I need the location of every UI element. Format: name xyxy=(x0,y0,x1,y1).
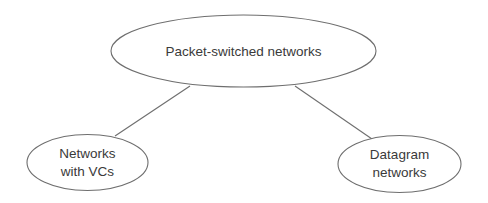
node-label-line-2: networks xyxy=(372,165,426,180)
node-datagram-networks: Datagram networks xyxy=(338,136,461,193)
ellipse-vc xyxy=(27,135,148,191)
node-networks-with-vcs: Networks with VCs xyxy=(27,135,148,191)
node-label-line-1: Datagram xyxy=(370,147,429,162)
ellipse-datagram xyxy=(338,136,461,193)
node-label: Packet-switched networks xyxy=(165,44,321,59)
network-taxonomy-diagram: Packet-switched networks Networks with V… xyxy=(0,0,488,203)
edge-root-to-datagram xyxy=(295,86,372,139)
node-label-line-2: with VCs xyxy=(60,164,115,179)
node-label-line-1: Networks xyxy=(59,146,116,161)
node-packet-switched-networks: Packet-switched networks xyxy=(111,15,376,87)
edge-root-to-vc xyxy=(115,86,190,136)
